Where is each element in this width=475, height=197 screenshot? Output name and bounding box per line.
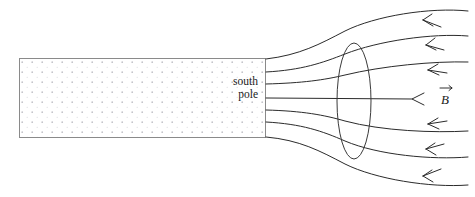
figure-canvas: south pole bbox=[0, 0, 475, 197]
b-field-vector-arrow-icon bbox=[440, 86, 452, 91]
b-field-label: B bbox=[441, 92, 449, 107]
flux-surface-ellipse bbox=[337, 43, 371, 159]
field-line-4-arrowhead bbox=[412, 93, 424, 105]
magnet-field-figure: south pole bbox=[0, 0, 475, 197]
field-line-3-arrowhead bbox=[428, 64, 447, 75]
field-line-6-arrowhead bbox=[426, 143, 444, 155]
field-line-4 bbox=[266, 98, 412, 99]
field-line-2-arrowhead bbox=[426, 38, 444, 50]
field-line-1-arrowhead bbox=[423, 14, 441, 27]
field-line-1 bbox=[266, 10, 468, 59]
field-line-2 bbox=[266, 35, 468, 72]
field-line-5-arrowhead bbox=[428, 118, 447, 129]
magnet-body-rect bbox=[20, 59, 266, 138]
b-field-label-group: B bbox=[440, 86, 452, 108]
field-line-7-arrowhead bbox=[423, 169, 441, 182]
magnet-pole-label-line2: pole bbox=[238, 88, 258, 101]
magnet-pole-label-line1: south bbox=[233, 75, 258, 87]
field-line-7 bbox=[266, 137, 468, 186]
field-line-group bbox=[266, 10, 468, 186]
